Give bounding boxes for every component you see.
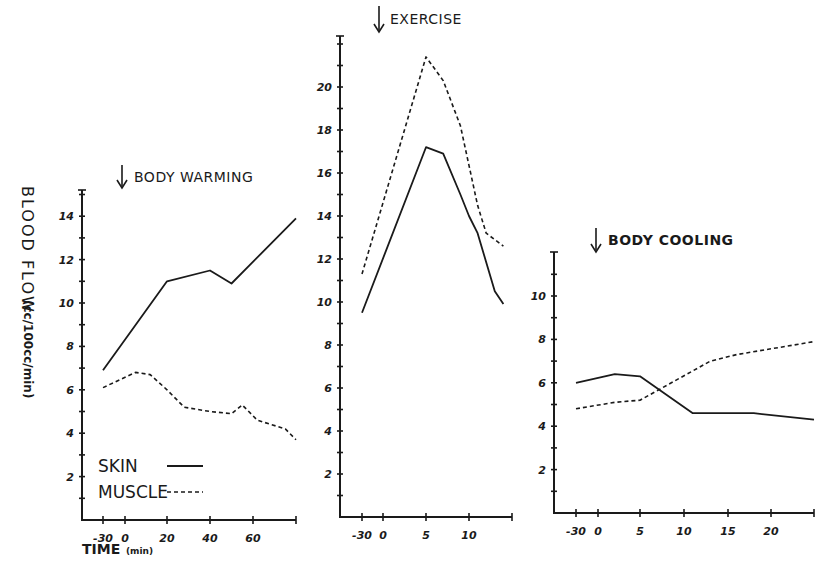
panel-title: BODY WARMING xyxy=(134,169,253,185)
y-tick-label: 14 xyxy=(317,210,332,223)
data-lines xyxy=(103,218,296,439)
panel-body-warming: BODY WARMING 2468101214-300204060 SKIN M… xyxy=(59,165,296,557)
x-tick-label: 40 xyxy=(201,532,218,545)
x-tick-label: 5 xyxy=(422,529,430,542)
svg-text:BLOOD FLOW: BLOOD FLOW xyxy=(18,186,37,314)
axis-lines xyxy=(554,252,814,513)
series-muscle xyxy=(103,372,296,439)
x-tick-label: 10 xyxy=(461,529,477,542)
panel-exercise: EXERCISE 2468101214161820-300510 xyxy=(317,6,512,542)
series-muscle xyxy=(362,57,503,274)
data-lines xyxy=(576,342,814,420)
svg-text:TIME: TIME xyxy=(82,541,120,557)
y-tick-label: 18 xyxy=(317,124,333,137)
x-tick-label: 60 xyxy=(245,532,261,545)
x-tick-label: 15 xyxy=(720,525,736,538)
y-tick-label: 6 xyxy=(66,384,74,397)
axes: 246810-3005101520 xyxy=(531,252,814,538)
y-tick-label: 10 xyxy=(531,290,547,303)
y-tick-label: 4 xyxy=(323,425,332,438)
x-tick-label: 20 xyxy=(159,532,175,545)
legend: SKIN MUSCLE xyxy=(98,456,203,502)
series-skin xyxy=(576,374,814,420)
panel-title: EXERCISE xyxy=(390,11,462,27)
y-tick-label: 16 xyxy=(317,167,333,180)
x-tick-label: 0 xyxy=(379,529,387,542)
blood-flow-figure: BLOOD FLOW (cc/100cc/min) BODY WARMING 2… xyxy=(0,0,821,576)
y-tick-label: 2 xyxy=(538,464,546,477)
y-tick-label: 2 xyxy=(66,471,74,484)
y-tick-label: 12 xyxy=(59,254,75,267)
y-tick-label: 12 xyxy=(317,253,333,266)
y-tick-label: 2 xyxy=(324,468,332,481)
event-arrow-icon xyxy=(591,228,601,252)
y-tick-label: 10 xyxy=(317,296,333,309)
axes: 2468101214161820-300510 xyxy=(317,36,512,542)
y-tick-label: 8 xyxy=(66,340,74,353)
event-arrow-icon xyxy=(374,6,384,32)
y-tick-label: 10 xyxy=(59,297,75,310)
x-tick-label: 0 xyxy=(594,525,602,538)
y-tick-label: 14 xyxy=(59,210,74,223)
panel-body-cooling: BODY COOLING 246810-3005101520 xyxy=(531,228,814,538)
x-tick-label: -30 xyxy=(352,529,372,542)
x-tick-label: 10 xyxy=(676,525,692,538)
legend-skin-label: SKIN xyxy=(98,456,138,476)
y-tick-label: 4 xyxy=(65,427,74,440)
x-tick-label: 5 xyxy=(636,525,644,538)
svg-text:(cc/100cc/min): (cc/100cc/min) xyxy=(21,300,35,398)
axis-lines xyxy=(340,36,512,517)
y-tick-label: 20 xyxy=(317,81,333,94)
legend-muscle-label: MUSCLE xyxy=(98,482,168,502)
x-axis-label: TIME (min) xyxy=(82,541,153,557)
y-tick-label: 6 xyxy=(324,382,332,395)
series-skin xyxy=(103,218,296,370)
panel-title: BODY COOLING xyxy=(608,232,734,248)
x-tick-label: 20 xyxy=(763,525,779,538)
y-tick-label: 8 xyxy=(538,333,546,346)
event-arrow-icon xyxy=(117,165,127,188)
y-axis-label: BLOOD FLOW (cc/100cc/min) xyxy=(18,186,37,398)
svg-text:(min): (min) xyxy=(126,546,153,556)
data-lines xyxy=(362,57,503,313)
y-tick-label: 8 xyxy=(324,339,332,352)
y-tick-label: 6 xyxy=(538,377,546,390)
y-tick-label: 4 xyxy=(537,420,546,433)
x-tick-label: 0 xyxy=(121,532,129,545)
x-tick-label: -30 xyxy=(566,525,586,538)
series-skin xyxy=(362,147,503,313)
